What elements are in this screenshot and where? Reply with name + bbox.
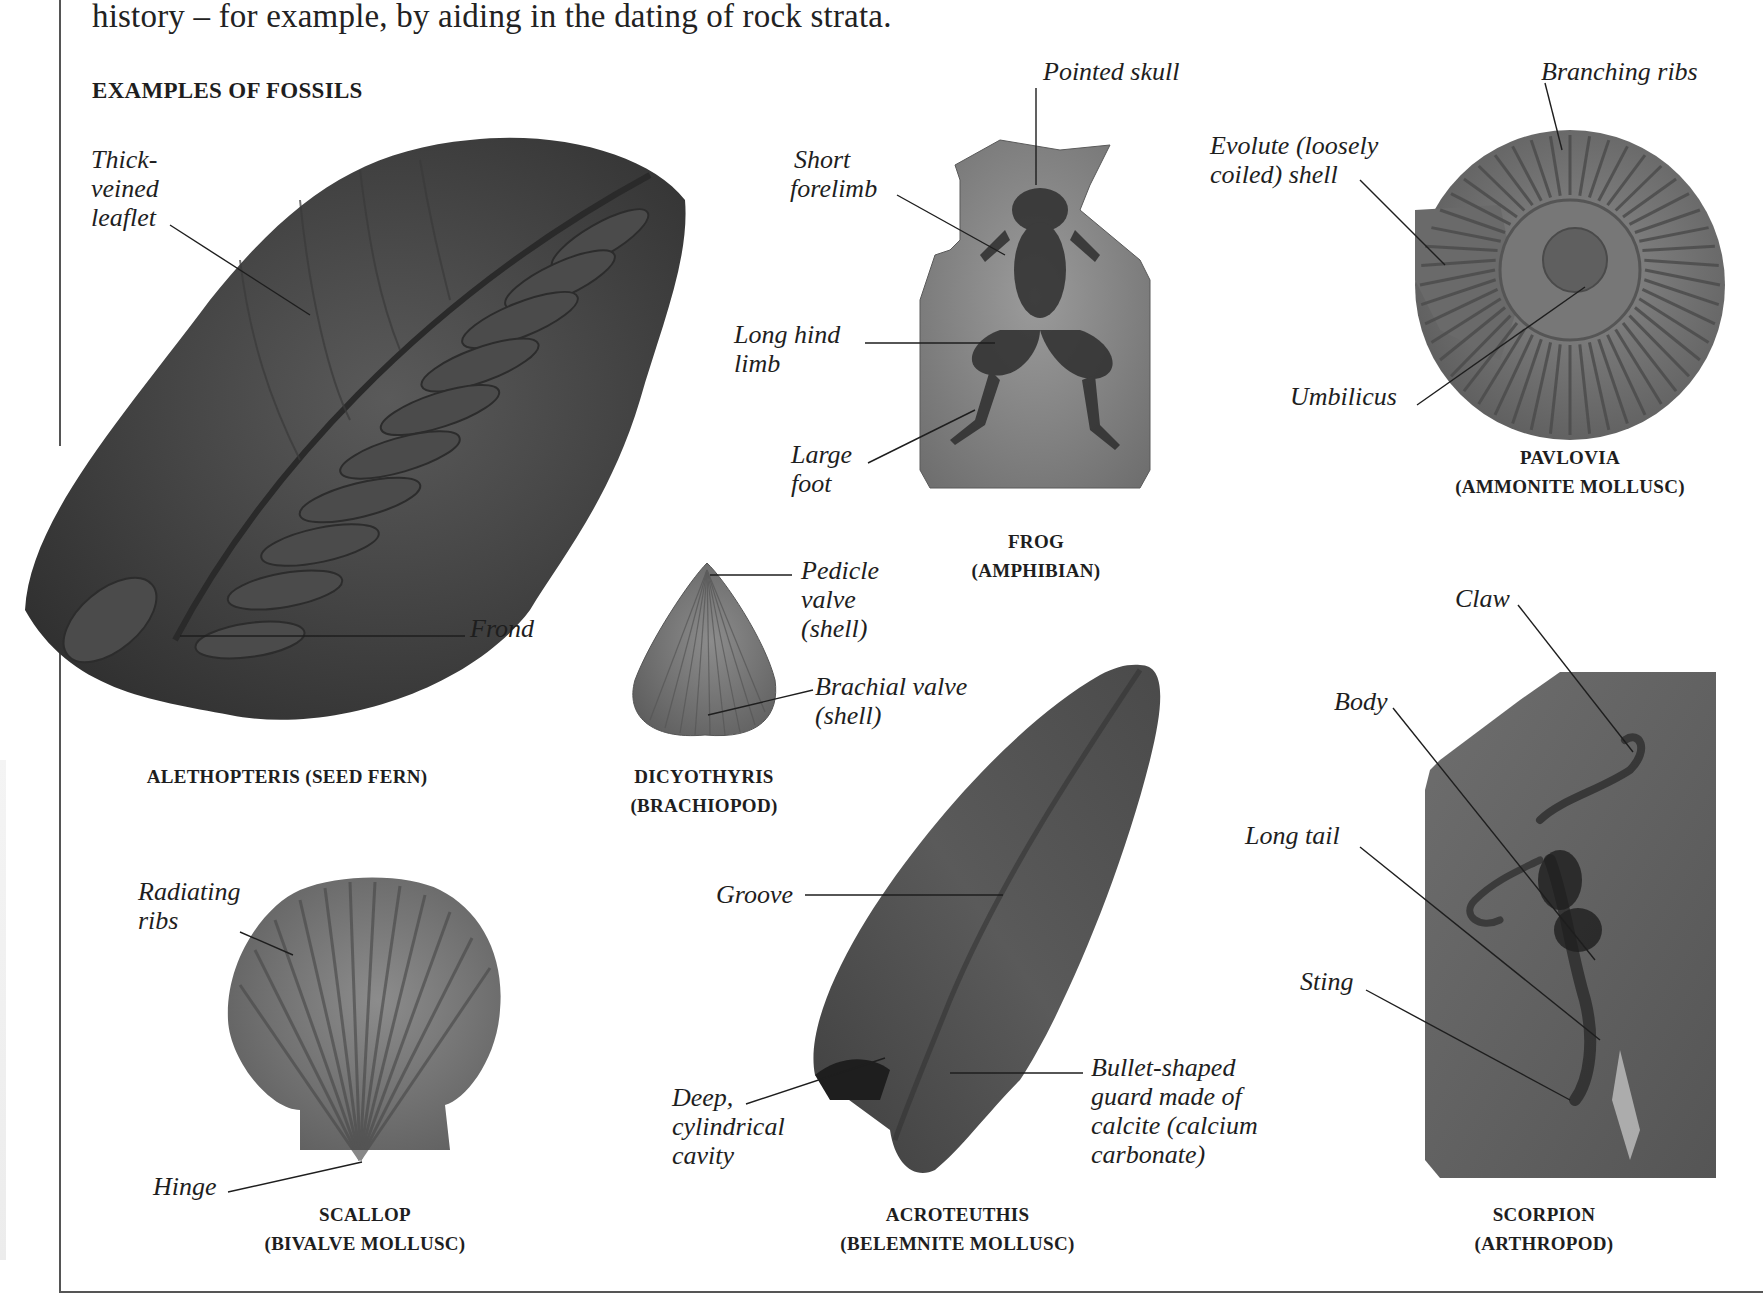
label-branching-ribs: Branching ribs bbox=[1541, 57, 1698, 86]
label-evolute-shell: Evolute (loosely coiled) shell bbox=[1210, 131, 1378, 189]
label-short-forelimb: Short forelimb bbox=[790, 145, 877, 203]
brachiopod-fossil bbox=[633, 563, 776, 736]
label-frond: Frond bbox=[470, 614, 534, 643]
label-hinge: Hinge bbox=[153, 1172, 217, 1201]
label-claw: Claw bbox=[1455, 584, 1510, 613]
label-pedicle-valve: Pedicle valve (shell) bbox=[801, 556, 879, 643]
caption-ammonite: PAVLOVIA (AMMONITE MOLLUSC) bbox=[1420, 443, 1720, 501]
label-groove: Groove bbox=[716, 880, 793, 909]
fossil-illustrations bbox=[0, 0, 1763, 1302]
label-deep-cavity: Deep, cylindrical cavity bbox=[672, 1083, 785, 1170]
caption-frog: FROG (AMPHIBIAN) bbox=[936, 527, 1136, 585]
caption-fern: ALETHOPTERIS (SEED FERN) bbox=[122, 762, 452, 791]
label-body: Body bbox=[1334, 687, 1387, 716]
caption-brachiopod: DICYOTHYRIS (BRACHIOPOD) bbox=[604, 762, 804, 820]
scorpion-fossil bbox=[1425, 672, 1716, 1178]
label-umbilicus: Umbilicus bbox=[1290, 382, 1397, 411]
caption-scorpion: SCORPION (ARTHROPOD) bbox=[1444, 1200, 1644, 1258]
caption-belemnite: ACROTEUTHIS (BELEMNITE MOLLUSC) bbox=[800, 1200, 1115, 1258]
label-sting: Sting bbox=[1300, 967, 1353, 996]
label-bullet-guard: Bullet-shaped guard made of calcite (cal… bbox=[1091, 1053, 1258, 1169]
label-brachial-valve: Brachial valve (shell) bbox=[815, 672, 967, 730]
ammonite-fossil bbox=[1415, 130, 1725, 440]
frog-fossil bbox=[920, 140, 1150, 488]
label-long-hind-limb: Long hind limb bbox=[734, 320, 840, 378]
scallop-fossil bbox=[228, 878, 501, 1160]
caption-scallop: SCALLOP (BIVALVE MOLLUSC) bbox=[230, 1200, 500, 1258]
label-large-foot: Large foot bbox=[791, 440, 852, 498]
label-pointed-skull: Pointed skull bbox=[1043, 57, 1179, 86]
label-leaflet: Thick- veined leaflet bbox=[91, 145, 159, 232]
label-radiating-ribs: Radiating ribs bbox=[138, 877, 241, 935]
label-long-tail: Long tail bbox=[1245, 821, 1340, 850]
